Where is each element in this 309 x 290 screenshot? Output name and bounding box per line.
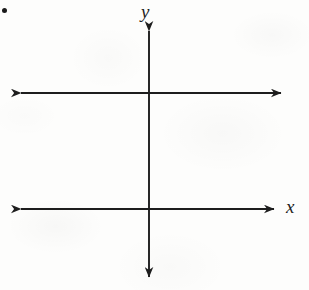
axes-drawing <box>0 0 309 290</box>
coordinate-plane-figure: y x <box>0 0 309 290</box>
x-axis-label: x <box>286 197 294 216</box>
y-axis-label: y <box>141 2 149 21</box>
